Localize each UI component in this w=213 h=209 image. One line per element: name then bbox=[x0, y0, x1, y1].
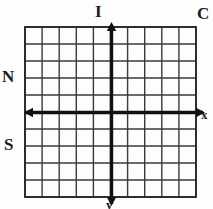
y-axis-label: y bbox=[106, 198, 113, 209]
x-axis-label: x bbox=[201, 108, 208, 121]
grid-and-axes-graphic bbox=[0, 0, 213, 209]
quadrant-label-left-upper: N bbox=[2, 68, 14, 85]
coordinate-plane-figure: I C N S x y bbox=[0, 0, 213, 209]
quadrant-label-top-right: C bbox=[197, 5, 209, 22]
quadrant-label-top: I bbox=[95, 3, 102, 20]
quadrant-label-left-lower: S bbox=[4, 136, 13, 153]
